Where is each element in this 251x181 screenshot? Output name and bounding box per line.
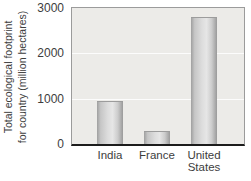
gridline-2000	[72, 53, 244, 54]
bar-france	[144, 131, 170, 144]
y-tick-label: 1000	[24, 92, 64, 106]
y-tick-label: 2000	[24, 46, 64, 60]
gridline-1000	[72, 99, 244, 100]
y-tick-label: 3000	[24, 1, 64, 15]
bar-united-states	[191, 17, 217, 144]
y-tick-label: 0	[24, 137, 64, 151]
ecological-footprint-bar-chart: Total ecological footprint for country (…	[0, 0, 251, 181]
x-label-united-states: United States	[172, 149, 236, 173]
y-axis-title-line-1: Total ecological footprint	[1, 0, 15, 167]
plot-area	[71, 7, 245, 146]
bar-india	[97, 101, 123, 144]
